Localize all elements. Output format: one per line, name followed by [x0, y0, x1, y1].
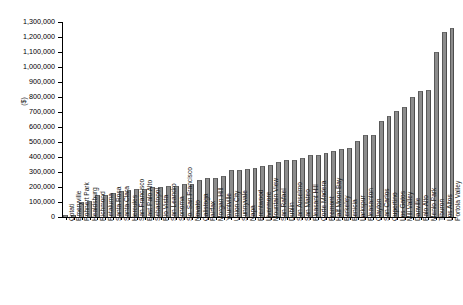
- y-tick-mark: [58, 67, 62, 68]
- x-tick-label: Yountville: [226, 193, 233, 221]
- x-tick-label: Dublin: [289, 202, 296, 221]
- x-tick-label: Santa Rosa: [116, 187, 123, 221]
- y-tick-mark: [58, 37, 62, 38]
- x-tick-label: Petaluma: [108, 193, 115, 221]
- bar-chart: ($) 1,300,0001,200,0001,100,0001,000,000…: [0, 0, 463, 305]
- y-tick-label: 800,000: [29, 92, 55, 101]
- x-tick-label: Healdsburg: [92, 187, 99, 221]
- y-tick-label: 100,000: [29, 197, 55, 206]
- x-tick-label: Portola Valley: [455, 181, 462, 221]
- x-tick-label: Benicia: [352, 199, 359, 221]
- y-tick-mark: [58, 202, 62, 203]
- x-tick-label: Union City: [234, 191, 241, 221]
- y-tick-mark: [58, 112, 62, 113]
- y-tick-label: 500,000: [29, 137, 55, 146]
- x-tick-label: Larkspur: [360, 195, 367, 221]
- x-tick-label: Menlo Park: [431, 188, 438, 221]
- y-tick-label: 1,000,000: [23, 62, 55, 71]
- y-tick-mark: [58, 22, 62, 23]
- y-tick-mark: [58, 82, 62, 83]
- x-tick-label: Brentwood: [258, 189, 265, 221]
- x-tick-label: Clayton: [376, 199, 383, 221]
- x-tick-label: Sonoma: [179, 196, 186, 221]
- x-tick-label: Morgan Hill: [218, 188, 225, 221]
- x-tick-label: Pleasant Hill: [313, 184, 320, 221]
- y-tick-label: 900,000: [29, 77, 55, 86]
- x-tick-label: Rio Vista: [163, 195, 170, 221]
- x-tick-label: Fairfax: [210, 201, 217, 221]
- x-tick-label: Mountain View: [273, 178, 280, 221]
- x-tick-label: Berkeley: [344, 195, 351, 221]
- y-tick-mark: [58, 97, 62, 98]
- x-tick-label: San Anselmo: [297, 182, 304, 221]
- y-tick-mark: [58, 52, 62, 53]
- x-axis-tick: [66, 217, 67, 220]
- y-tick-mark: [58, 217, 62, 218]
- x-tick-label: San Leandro: [171, 183, 178, 221]
- x-tick-label: Santa Clara: [124, 186, 131, 221]
- x-tick-label: Richmond: [100, 191, 107, 221]
- x-tick-label: Novato: [195, 200, 202, 221]
- y-tick-label: 1,100,000: [23, 47, 55, 56]
- y-tick-label: 1,200,000: [23, 32, 55, 41]
- y-tick-label: 400,000: [29, 152, 55, 161]
- x-tick-label: Danville: [415, 198, 422, 221]
- x-tick-label: Sunnyvale: [242, 190, 249, 221]
- y-tick-mark: [58, 142, 62, 143]
- y-tick-mark: [58, 172, 62, 173]
- x-tick-label: Palo Alto: [423, 195, 430, 221]
- x-tick-label: Corte Madera: [321, 181, 328, 221]
- y-tick-label: 1,300,000: [23, 17, 55, 26]
- y-tick-mark: [58, 187, 62, 188]
- x-tick-label: Tiburon: [439, 199, 446, 221]
- x-tick-label: Rohnert Park: [84, 182, 91, 221]
- x-tick-label: Napa: [250, 205, 257, 221]
- y-tick-label: 0: [51, 212, 55, 221]
- x-tick-label: Los Altos: [447, 194, 454, 221]
- x-tick-label: San Carlos: [384, 188, 391, 221]
- x-tick-label: Sebastopol: [155, 188, 162, 221]
- y-tick-mark: [58, 127, 62, 128]
- x-axis-labels: CotatiEmeryvilleRohnert ParkHealdsburgRi…: [62, 221, 456, 305]
- y-tick-label: 700,000: [29, 107, 55, 116]
- bar: [442, 32, 447, 217]
- x-tick-label: San Mateo: [305, 189, 312, 221]
- x-tick-label: San Rafael: [281, 188, 288, 221]
- y-axis-title: ($): [20, 87, 27, 117]
- x-tick-label: Pleasanton: [368, 188, 375, 221]
- x-tick-label: Cupertino: [392, 192, 399, 221]
- x-tick-label: Emeryville: [76, 191, 83, 221]
- y-tick-label: 600,000: [29, 122, 55, 131]
- y-tick-label: 300,000: [29, 167, 55, 176]
- y-tick-mark: [58, 157, 62, 158]
- x-tick-label: Mill Valley: [407, 192, 414, 221]
- x-tick-label: East Palo Alto: [147, 180, 154, 221]
- y-tick-label: 200,000: [29, 182, 55, 191]
- x-tick-label: So. San Francisco: [187, 167, 194, 221]
